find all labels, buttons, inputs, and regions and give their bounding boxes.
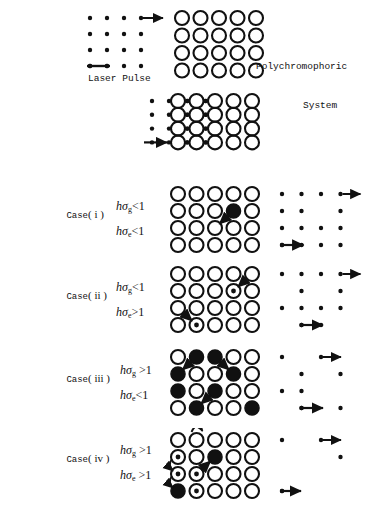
- chromophore-ground: [208, 204, 222, 218]
- emitted-field-dot: [338, 406, 342, 410]
- emitted-field-dot: [280, 438, 284, 442]
- pulse-dot: [88, 16, 92, 20]
- chromophore-ground: [245, 301, 259, 315]
- pulse-dot: [88, 48, 92, 52]
- chromophore-ground: [208, 301, 222, 315]
- chromophore-excited: [171, 384, 185, 398]
- polychromophoric-label-line2: System: [256, 99, 347, 112]
- chromophore-ground: [245, 384, 259, 398]
- interaction-chromophore: [171, 108, 185, 122]
- pulse-bar-dot-right: [105, 64, 109, 68]
- case-iii-word: Case: [66, 375, 88, 385]
- chromophore-center-dot: [194, 472, 199, 477]
- chromophore-ground: [227, 450, 241, 464]
- emitted-field-dot: [338, 306, 342, 310]
- polychromophoric-label-line1: Polychromophoric: [256, 60, 347, 73]
- emitted-field-dot: [299, 306, 303, 310]
- chromophore-ground: [190, 301, 204, 315]
- chromophore-ground: [227, 433, 241, 447]
- chromophore-ground: [190, 284, 204, 298]
- system-chromophore: [175, 64, 189, 78]
- interaction-chromophore: [190, 122, 204, 136]
- system-chromophore: [194, 46, 208, 60]
- chromophore-ground: [208, 318, 222, 332]
- emitted-field-dot: [319, 438, 323, 442]
- chromophore-ground: [171, 401, 185, 415]
- chromophore-ground: [245, 318, 259, 332]
- system-chromophore: [231, 46, 245, 60]
- interaction-chromophore: [208, 94, 222, 108]
- emitted-field-dot: [319, 355, 323, 359]
- case-iv-name: Case( iv ): [28, 434, 109, 482]
- chromophore-ground: [171, 318, 185, 332]
- case-i-roman: ( i ): [88, 208, 104, 220]
- pulse-dot: [122, 64, 126, 68]
- case-iii-diagram: [160, 345, 384, 417]
- chromophore-ground: [171, 221, 185, 235]
- chromophore-ground: [227, 484, 241, 498]
- chromophore-ground: [245, 367, 259, 381]
- emitted-field-dot: [280, 192, 284, 196]
- chromophore-ground: [245, 450, 259, 464]
- pulse-dot: [139, 16, 143, 20]
- chromophore-ground: [190, 187, 204, 201]
- case-iii-name: Case( iii ): [28, 354, 110, 402]
- chromophore-center-dot: [194, 323, 199, 328]
- coupling-dot-left: [167, 126, 171, 130]
- emitted-field-dot: [338, 226, 342, 230]
- emitted-field-dot: [280, 226, 284, 230]
- emitted-field-dot: [338, 455, 342, 459]
- chromophore-ground: [245, 238, 259, 252]
- pulse-bar-dot-left: [88, 64, 92, 68]
- energy-transfer-loop: [192, 428, 203, 432]
- system-chromophore: [249, 11, 263, 25]
- coupling-dot-left: [167, 140, 171, 144]
- interaction-chromophore: [208, 122, 222, 136]
- emitted-field-dot: [319, 243, 323, 247]
- pulse-dot: [105, 32, 109, 36]
- coupling-dot-left: [167, 113, 171, 117]
- emitted-field-dot: [319, 192, 323, 196]
- chromophore-ground: [208, 367, 222, 381]
- laser-pulse-label: Laser Pulse: [88, 74, 151, 84]
- chromophore-ground: [171, 350, 185, 364]
- chromophore-center-dot: [176, 472, 181, 477]
- chromophore-ground: [227, 221, 241, 235]
- case-ii-name: Case( ii ): [28, 271, 107, 319]
- pulse-dot: [139, 64, 143, 68]
- case-i-cond-e: hσe<1: [104, 213, 144, 251]
- pulse-dot: [122, 48, 126, 52]
- system-chromophore: [212, 46, 226, 60]
- chromophore-ground: [227, 350, 241, 364]
- case-i-word: Case: [66, 211, 88, 221]
- chromophore-ground: [190, 384, 204, 398]
- polychromophoric-label: Polychromophoric System: [256, 34, 347, 138]
- chromophore-ground: [245, 433, 259, 447]
- system-chromophore: [194, 29, 208, 43]
- interaction-chromophore: [171, 135, 185, 149]
- interaction-chromophore: [171, 94, 185, 108]
- emitted-field-dot: [280, 389, 284, 393]
- chromophore-ground: [245, 350, 259, 364]
- chromophore-ground: [190, 238, 204, 252]
- chromophore-ground: [208, 467, 222, 481]
- system-chromophore: [231, 29, 245, 43]
- chromophore-ground: [227, 238, 241, 252]
- chromophore-ground: [190, 221, 204, 235]
- emitted-field-dot: [338, 289, 342, 293]
- chromophore-excited: [245, 401, 259, 415]
- interaction-chromophore: [208, 135, 222, 149]
- chromophore-center-dot: [194, 489, 199, 494]
- chromophore-ground: [190, 204, 204, 218]
- case-iv-cond-e: hσe>1: [108, 457, 151, 495]
- interaction-chromophore: [171, 122, 185, 136]
- interaction-field-dot: [150, 113, 154, 117]
- chromophore-excited: [171, 484, 185, 498]
- case-iv-diagram: [160, 428, 384, 506]
- system-chromophore: [175, 46, 189, 60]
- interaction-chromophore: [190, 135, 204, 149]
- case-ii-word: Case: [66, 292, 88, 302]
- system-chromophore: [231, 11, 245, 25]
- system-chromophore: [175, 11, 189, 25]
- emitted-field-dot: [338, 209, 342, 213]
